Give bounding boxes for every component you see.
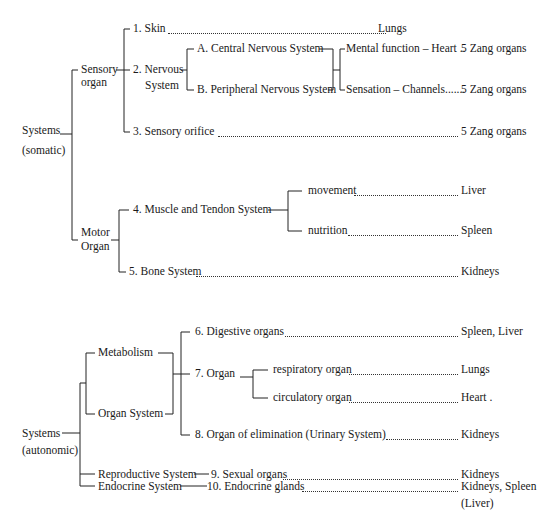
leader-dots bbox=[349, 373, 458, 375]
leader-dots bbox=[283, 478, 458, 480]
leader-dots bbox=[349, 401, 458, 403]
respiratory-organ-label: respiratory organ bbox=[273, 363, 352, 376]
leader-dots bbox=[168, 32, 386, 34]
central-nervous-label: A. Central Nervous System bbox=[197, 42, 323, 55]
elimination-organ-organ: Kidneys bbox=[461, 428, 499, 441]
elimination-organ-label: 8. Organ of elimination (Urinary System) bbox=[195, 428, 386, 441]
peripheral-nervous-label: B. Peripheral Nervous System bbox=[197, 83, 336, 96]
endocrine-glands-organ: Kidneys, Spleen bbox=[461, 480, 536, 493]
mental-function-label: Mental function – Heart .. bbox=[346, 42, 465, 55]
movement-organ: Liver bbox=[461, 184, 486, 197]
bone-system-organ: Kidneys bbox=[461, 265, 499, 278]
motor-organ-sublabel: Organ bbox=[81, 240, 110, 253]
somatic-root-sublabel: (somatic) bbox=[22, 144, 65, 157]
nervous-sublabel: System bbox=[145, 79, 179, 92]
endocrine-glands-organ-note: (Liver) bbox=[461, 497, 494, 510]
somatic-root-label: Systems bbox=[22, 124, 60, 137]
circulatory-organ-label: circulatory organ bbox=[273, 391, 352, 404]
nutrition-label: nutrition bbox=[308, 224, 348, 237]
endocrine-glands-label: 10. Endocrine glands bbox=[207, 480, 304, 493]
autonomic-root-label: Systems bbox=[22, 427, 60, 440]
mental-function-organ: 5 Zang organs bbox=[461, 42, 527, 55]
skin-organ: Lungs bbox=[378, 22, 407, 35]
leader-dots bbox=[285, 335, 458, 337]
leader-dots bbox=[348, 234, 458, 236]
sensory-organ-sublabel: organ bbox=[81, 76, 107, 89]
digestive-organs-organ: Spleen, Liver bbox=[461, 325, 523, 338]
autonomic-root-sublabel: (autonomic) bbox=[22, 444, 78, 457]
motor-organ-label: Motor bbox=[81, 226, 110, 239]
bone-system-label: 5. Bone System bbox=[129, 265, 202, 278]
sensory-orifice-label: 3. Sensory orifice bbox=[133, 125, 214, 138]
leader-dots bbox=[386, 438, 458, 440]
leader-dots bbox=[302, 490, 458, 492]
sensation-label: Sensation – Channels....... bbox=[346, 83, 465, 96]
muscle-tendon-label: 4. Muscle and Tendon System bbox=[133, 203, 272, 216]
organ-7-label: 7. Organ bbox=[195, 367, 235, 380]
skin-label: 1. Skin bbox=[133, 22, 166, 35]
circulatory-organ-organ: Heart . bbox=[461, 391, 492, 404]
sensory-organ-label: Sensory bbox=[81, 63, 118, 76]
respiratory-organ-organ: Lungs bbox=[461, 363, 490, 376]
nervous-label: 2. Nervous bbox=[133, 63, 183, 76]
nutrition-organ: Spleen bbox=[461, 224, 492, 237]
sensation-organ: 5 Zang organs bbox=[461, 83, 527, 96]
sensory-orifice-organ: 5 Zang organs bbox=[461, 125, 527, 138]
movement-label: movement bbox=[308, 184, 357, 197]
digestive-organs-label: 6. Digestive organs bbox=[195, 325, 284, 338]
leader-dots bbox=[354, 194, 458, 196]
leader-dots bbox=[196, 275, 458, 277]
leader-dots bbox=[218, 135, 458, 137]
metabolism-label: Metabolism bbox=[98, 346, 153, 359]
endocrine-system-label: Endocrine System bbox=[98, 480, 182, 493]
organ-system-label: Organ System bbox=[98, 407, 163, 420]
